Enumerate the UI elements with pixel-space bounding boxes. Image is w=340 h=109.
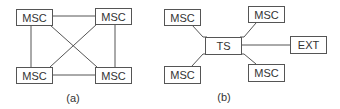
node-label: MSC — [101, 70, 126, 82]
caption-b: (b) — [217, 91, 230, 103]
node-label: MSC — [22, 70, 47, 82]
node-label: TS — [216, 40, 230, 52]
node-label: MSC — [254, 9, 279, 21]
msc-topology-diagrams: MSC MSC MSC MSC (a) MSC MSC — [0, 0, 340, 109]
node-msc-a-br: MSC — [96, 68, 132, 84]
node-msc-b-tr: MSC — [249, 7, 285, 23]
caption-a: (a) — [66, 92, 79, 104]
node-label: MSC — [101, 11, 126, 23]
link-b-tr-ts — [240, 23, 256, 37]
node-ts: TS — [206, 38, 242, 55]
node-label: MSC — [254, 67, 279, 79]
link-b-bl-ts — [192, 54, 207, 66]
node-msc-b-br: MSC — [249, 65, 285, 82]
node-ext: EXT — [291, 37, 327, 54]
diagram-a-full-mesh: MSC MSC MSC MSC (a) — [17, 9, 132, 105]
node-msc-a-tl: MSC — [17, 10, 53, 26]
link-b-br-ts — [240, 54, 256, 64]
node-msc-b-tl: MSC — [165, 10, 201, 26]
node-label: EXT — [298, 39, 320, 51]
node-msc-a-tr: MSC — [96, 9, 132, 25]
node-msc-b-bl: MSC — [165, 67, 201, 84]
node-msc-a-bl: MSC — [17, 68, 53, 84]
node-label: MSC — [170, 12, 195, 24]
diagram-b-star: MSC MSC TS EXT MSC MSC (b) — [165, 7, 327, 104]
node-label: MSC — [170, 69, 195, 81]
link-b-tl-ts — [192, 25, 207, 37]
node-label: MSC — [22, 12, 47, 24]
